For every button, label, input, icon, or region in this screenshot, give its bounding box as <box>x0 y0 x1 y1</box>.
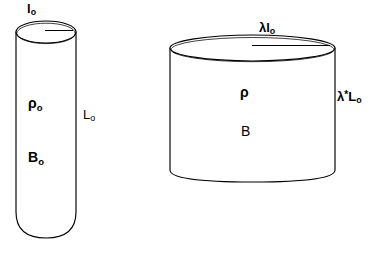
left-cylinder-length-label: Lo <box>83 108 95 121</box>
right-cylinder-density-label: ρ <box>240 85 249 99</box>
right-length-base: L <box>348 89 356 104</box>
right-cylinder-field-label: B <box>241 124 250 138</box>
left-cylinder-field-label: Bo <box>28 150 44 164</box>
right-length-star: * <box>344 89 348 100</box>
right-field-base: B <box>241 123 250 139</box>
left-cylinder-density-label: ρo <box>28 96 43 110</box>
left-field-base: B <box>28 149 38 165</box>
left-cylinder-top-ellipse <box>16 21 76 43</box>
right-length-subscript: o <box>356 95 361 105</box>
left-cylinder-group <box>16 21 76 238</box>
right-cylinder-length-label: λ*Lo <box>337 90 362 103</box>
cylinder-diagram-svg <box>0 0 375 253</box>
right-radius-subscript: o <box>270 26 275 36</box>
figure-canvas: lo ρo Bo Lo λlo ρ B λ*Lo <box>0 0 375 253</box>
right-cylinder-group <box>170 35 335 182</box>
left-density-subscript: o <box>37 102 43 113</box>
right-cylinder-radius-label: λlo <box>259 21 275 34</box>
right-cylinder-top-ellipse <box>170 35 335 61</box>
left-length-subscript: o <box>90 113 95 123</box>
left-density-base: ρ <box>28 95 37 111</box>
left-cylinder-radius-label: lo <box>27 2 36 15</box>
left-cylinder-body <box>16 32 76 238</box>
left-radius-subscript: o <box>31 7 36 17</box>
right-density-base: ρ <box>240 84 249 100</box>
right-cylinder-body <box>170 48 335 182</box>
left-field-subscript: o <box>38 156 44 167</box>
